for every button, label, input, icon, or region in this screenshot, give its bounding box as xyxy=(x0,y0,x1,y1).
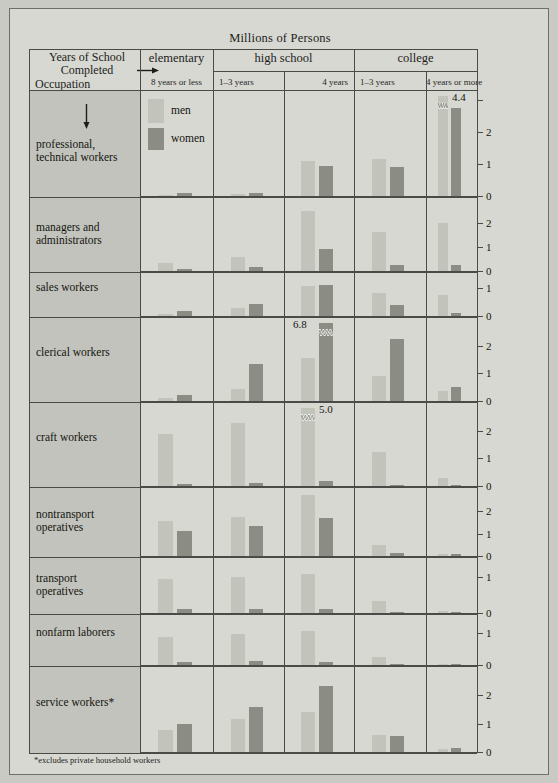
bar-men xyxy=(158,579,173,613)
bar-men xyxy=(231,423,245,486)
chart-panel xyxy=(354,614,426,666)
bar-men xyxy=(372,657,386,665)
y-axis-tick-label: 1 xyxy=(486,571,492,583)
chart-panel xyxy=(354,317,426,402)
header-corner-years-label: Years of SchoolCompleted xyxy=(35,51,139,77)
bar-men xyxy=(158,521,173,556)
bar-men xyxy=(231,517,245,556)
chart-panel xyxy=(284,614,354,666)
chart-panel xyxy=(426,272,477,317)
y-axis-tick-label: 0 xyxy=(486,746,492,758)
chart-panel xyxy=(354,197,426,272)
corner-line2: Completed xyxy=(61,63,114,77)
bar-women xyxy=(319,686,333,752)
chart-panel xyxy=(140,317,213,402)
row-label: transportoperatives xyxy=(36,572,83,598)
chart-panel xyxy=(354,402,426,487)
bar-women xyxy=(249,304,263,316)
chart-panel xyxy=(354,666,426,753)
bar-men xyxy=(231,389,245,401)
chart-panel xyxy=(140,197,213,272)
chart-panel xyxy=(426,614,477,666)
figure-supertitle: Millions of Persons xyxy=(10,31,550,46)
header-subgroup-label: 4 years xyxy=(284,77,348,87)
bar-men xyxy=(301,286,315,316)
figure-page: Millions of Persons Years of SchoolCompl… xyxy=(0,0,558,783)
y-axis-tick-label: 2 xyxy=(486,425,492,437)
broken-bar-marker xyxy=(319,329,333,336)
rule-horizontal xyxy=(29,49,477,50)
bar-men xyxy=(438,223,448,271)
chart-panel xyxy=(426,487,477,557)
rule-horizontal xyxy=(354,71,477,72)
bar-men xyxy=(372,293,386,316)
bar-men xyxy=(372,159,386,196)
bar-men xyxy=(372,452,386,486)
chart-panel xyxy=(426,197,477,272)
bar-men xyxy=(158,730,173,752)
bar-women xyxy=(390,736,404,752)
row-label: nonfarm laborers xyxy=(36,626,115,639)
rule-horizontal xyxy=(29,197,477,198)
header-subgroup-label: 8 years or less xyxy=(140,77,213,87)
bar-men xyxy=(158,263,173,271)
row-label-cell xyxy=(29,272,140,317)
bar-men xyxy=(438,295,448,316)
chart-panel xyxy=(213,557,284,614)
broken-bar-marker xyxy=(301,414,315,421)
chart-panel xyxy=(140,557,213,614)
bar-men xyxy=(158,434,173,486)
bar-women xyxy=(390,167,404,196)
row-label-cell xyxy=(29,402,140,487)
y-axis: 012 xyxy=(477,197,521,272)
row-label: craft workers xyxy=(36,431,97,444)
bar-women xyxy=(319,249,333,271)
chart-panel xyxy=(426,666,477,753)
chart-panel xyxy=(426,557,477,614)
bar-men xyxy=(301,161,315,196)
bar-women xyxy=(177,724,192,752)
y-axis-tick-label: 2 xyxy=(486,505,492,517)
row-label: managers andadministrators xyxy=(36,221,102,247)
chart-panel xyxy=(426,402,477,487)
chart-panel xyxy=(284,557,354,614)
bar-value-label: 6.8 xyxy=(293,318,307,330)
chart-panel xyxy=(140,487,213,557)
bar-women xyxy=(249,526,263,556)
chart-panel: 4.4 xyxy=(426,90,477,197)
bar-men xyxy=(372,735,386,752)
bar-women xyxy=(177,531,192,556)
chart-panel xyxy=(213,614,284,666)
y-axis-tick-label: 1 xyxy=(486,718,492,730)
chart-panel xyxy=(213,487,284,557)
header-group-label: elementary xyxy=(140,51,213,66)
bar-women xyxy=(249,364,263,401)
y-axis: 012 xyxy=(477,317,521,402)
corner-line1: Years of School xyxy=(49,50,125,64)
bar-women xyxy=(249,707,263,752)
chart-panel xyxy=(140,402,213,487)
y-axis-tick-label: 1 xyxy=(486,452,492,464)
chart-panel xyxy=(140,272,213,317)
chart-panel: 5.0 xyxy=(284,402,354,487)
chart-panel xyxy=(284,666,354,753)
chart-panel xyxy=(284,90,354,197)
chart-panel xyxy=(213,197,284,272)
row-label: clerical workers xyxy=(36,346,110,359)
rule-vertical xyxy=(29,49,30,753)
chart-panel xyxy=(213,90,284,197)
header-group-label: high school xyxy=(213,51,354,66)
header-subgroup-label: 1–3 years xyxy=(360,77,395,87)
bar-men xyxy=(438,96,448,196)
chart-panel xyxy=(213,317,284,402)
y-axis-tick-label: 2 xyxy=(486,340,492,352)
bar-men xyxy=(231,257,245,271)
row-label-cell xyxy=(29,614,140,666)
chart-panel xyxy=(140,666,213,753)
legend-swatch-women xyxy=(148,128,164,150)
bar-men xyxy=(158,637,173,665)
bar-men xyxy=(231,308,245,316)
bar-women xyxy=(451,108,461,196)
bar-men xyxy=(372,376,386,401)
chart-panel xyxy=(213,402,284,487)
